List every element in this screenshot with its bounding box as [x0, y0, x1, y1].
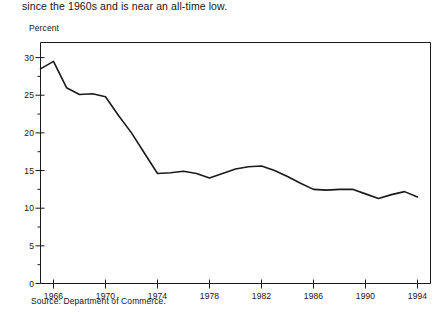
line-chart: 0510152025301966197019741978198219861990…: [0, 0, 446, 314]
y-axis-tick-label: 5: [12, 241, 34, 251]
data-series-line: [41, 61, 418, 198]
x-axis-tick-label: 1986: [304, 291, 323, 301]
source-note: Source: Department of Commerce.: [31, 296, 166, 306]
y-axis-tick-label: 15: [12, 166, 34, 176]
plot-frame: [41, 43, 431, 284]
y-axis-tick-label: 25: [12, 90, 34, 100]
x-axis-tick-label: 1990: [356, 291, 375, 301]
x-axis-tick-label: 1982: [252, 291, 271, 301]
chart-svg: [0, 0, 446, 314]
x-axis-tick-label: 1978: [200, 291, 219, 301]
x-axis-tick-label: 1994: [408, 291, 427, 301]
y-axis-tick-label: 10: [12, 203, 34, 213]
y-axis-tick-label: 30: [12, 53, 34, 63]
y-axis-tick-label: 0: [12, 279, 34, 289]
y-axis-tick-label: 20: [12, 128, 34, 138]
